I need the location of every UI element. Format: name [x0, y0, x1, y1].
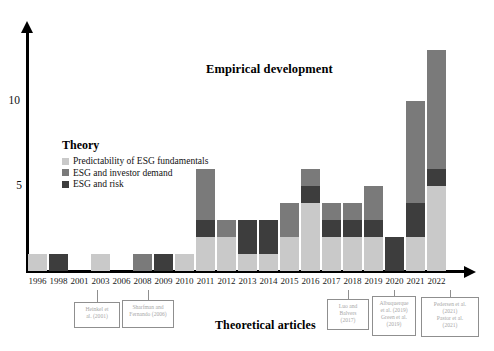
- bar-2010[interactable]: [175, 254, 194, 271]
- bar-segment-2011-esg-and-risk: [196, 220, 215, 237]
- y-axis-tick-10: 10: [2, 95, 20, 106]
- bar-2016[interactable]: [301, 169, 320, 271]
- bar-segment-2019-predictability-of-esg-fundamentals: [364, 237, 383, 271]
- bar-segment-2021-esg-and-risk: [406, 203, 425, 237]
- bar-2018[interactable]: [343, 203, 362, 271]
- bar-2017[interactable]: [322, 203, 341, 271]
- callout-line: Pastor et al.: [424, 315, 476, 322]
- bar-segment-2018-esg-and-risk: [343, 220, 362, 237]
- bar-segment-2016-predictability-of-esg-fundamentals: [301, 203, 320, 271]
- callout-pedersen-pastor[interactable]: Pedersen et al.(2021)Pastor et al.(2021): [421, 297, 479, 337]
- bar-segment-1998-esg-and-risk: [49, 254, 68, 271]
- callout-heinkel[interactable]: Heinkel etal. (2001): [74, 302, 120, 328]
- callout-line: Green et al.: [375, 314, 413, 321]
- bar-segment-2009-esg-and-risk: [154, 254, 173, 271]
- callout-leader-sharfman: [148, 290, 149, 300]
- bar-segment-2013-predictability-of-esg-fundamentals: [238, 254, 257, 271]
- bar-segment-2017-esg-and-investor-demand: [322, 203, 341, 220]
- bar-segment-2003-predictability-of-esg-fundamentals: [91, 254, 110, 271]
- bar-segment-2019-esg-and-risk: [364, 220, 383, 237]
- bar-segment-2015-predictability-of-esg-fundamentals: [280, 237, 299, 271]
- callout-albuquerque-green[interactable]: Albuquerqueet al. (2019)Green et al.(201…: [372, 296, 416, 336]
- callout-leader-luo-balvers: [348, 290, 349, 299]
- y-axis-tick-5: 5: [4, 180, 22, 191]
- callout-line: al. (2001): [77, 313, 117, 320]
- bar-segment-2020-esg-and-risk: [385, 237, 404, 271]
- bar-2012[interactable]: [217, 220, 236, 271]
- bar-segment-2016-esg-and-investor-demand: [301, 169, 320, 186]
- bar-2011[interactable]: [196, 169, 215, 271]
- bar-segment-2011-predictability-of-esg-fundamentals: [196, 237, 215, 271]
- callout-line: Heinkel et: [77, 306, 117, 313]
- theoretical-articles-label: Theoretical articles: [215, 318, 316, 333]
- bar-2021[interactable]: [406, 101, 425, 271]
- bar-segment-2012-predictability-of-esg-fundamentals: [217, 237, 236, 271]
- bar-segment-2022-predictability-of-esg-fundamentals: [427, 186, 446, 271]
- callout-line: Sharfman and: [125, 304, 171, 311]
- bar-2020[interactable]: [385, 237, 404, 271]
- bar-segment-2021-esg-and-investor-demand: [406, 101, 425, 203]
- bar-segment-2017-predictability-of-esg-fundamentals: [322, 237, 341, 271]
- bar-segment-2012-esg-and-investor-demand: [217, 220, 236, 237]
- esg-literature-stacked-bar-chart: 5 10 Empirical development Theoretical a…: [0, 0, 494, 351]
- bar-2014[interactable]: [259, 220, 278, 271]
- bar-segment-2018-predictability-of-esg-fundamentals: [343, 237, 362, 271]
- bar-2015[interactable]: [280, 203, 299, 271]
- bar-1998[interactable]: [49, 254, 68, 271]
- callout-line: (2021): [424, 322, 476, 329]
- bar-segment-2022-esg-and-risk: [427, 169, 446, 186]
- bar-segment-2008-esg-and-investor-demand: [133, 254, 152, 271]
- callout-line: (2021): [424, 308, 476, 315]
- callout-line: Pedersen et al.: [424, 301, 476, 308]
- callout-leader-pedersen-pastor: [450, 290, 451, 297]
- bar-2008[interactable]: [133, 254, 152, 271]
- callout-line: Albuquerque: [375, 300, 413, 307]
- bar-segment-2016-esg-and-risk: [301, 186, 320, 203]
- bar-segment-2018-esg-and-investor-demand: [343, 203, 362, 220]
- bar-2009[interactable]: [154, 254, 173, 271]
- callout-line: (2017): [330, 317, 366, 324]
- callout-luo-balvers[interactable]: Luo andBalvers(2017): [327, 299, 369, 330]
- bar-segment-2022-esg-and-investor-demand: [427, 50, 446, 169]
- bar-segment-2019-esg-and-investor-demand: [364, 186, 383, 220]
- bar-segment-2010-predictability-of-esg-fundamentals: [175, 254, 194, 271]
- bar-2013[interactable]: [238, 220, 257, 271]
- bar-segment-2013-esg-and-risk: [238, 220, 257, 254]
- bar-segment-2015-esg-and-investor-demand: [280, 203, 299, 237]
- callout-line: Luo and: [330, 303, 366, 310]
- bar-1996[interactable]: [28, 254, 47, 271]
- bar-segment-2011-esg-and-investor-demand: [196, 169, 215, 220]
- bar-segment-2014-predictability-of-esg-fundamentals: [259, 254, 278, 271]
- callout-line: Balvers: [330, 310, 366, 317]
- bar-segment-1996-predictability-of-esg-fundamentals: [28, 254, 47, 271]
- bar-2022[interactable]: [427, 50, 446, 271]
- callout-line: Fernando (2006): [125, 311, 171, 318]
- x-axis-tick-2022: 2022: [423, 276, 451, 286]
- plot-area: [29, 24, 466, 271]
- callout-line: et al. (2019): [375, 307, 413, 314]
- bar-segment-2017-esg-and-risk: [322, 220, 341, 237]
- bar-2019[interactable]: [364, 186, 383, 271]
- bar-segment-2021-predictability-of-esg-fundamentals: [406, 237, 425, 271]
- callout-line: (2019): [375, 321, 413, 328]
- bar-segment-2014-esg-and-risk: [259, 220, 278, 254]
- callout-leader-heinkel: [97, 290, 98, 302]
- callout-sharfman[interactable]: Sharfman andFernando (2006): [122, 300, 174, 328]
- bar-2003[interactable]: [91, 254, 110, 271]
